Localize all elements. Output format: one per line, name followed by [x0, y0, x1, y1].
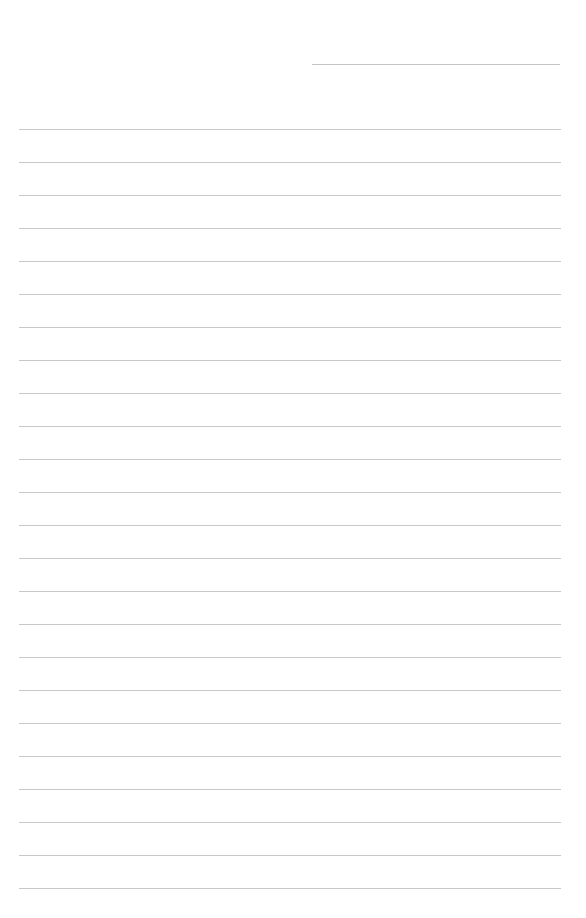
ruled-line	[19, 360, 561, 361]
ruled-line	[19, 426, 561, 427]
ruled-line	[19, 624, 561, 625]
ruled-line	[19, 591, 561, 592]
ruled-line	[19, 261, 561, 262]
ruled-line	[19, 327, 561, 328]
lined-paper-page	[0, 0, 586, 918]
ruled-line	[19, 756, 561, 757]
ruled-line	[19, 822, 561, 823]
ruled-line	[19, 558, 561, 559]
ruled-line	[19, 129, 561, 130]
ruled-line	[19, 789, 561, 790]
ruled-line	[19, 525, 561, 526]
ruled-line	[19, 195, 561, 196]
ruled-line	[19, 228, 561, 229]
ruled-line	[19, 888, 561, 889]
header-name-line	[312, 64, 560, 65]
ruled-line	[19, 294, 561, 295]
ruled-line	[19, 690, 561, 691]
ruled-line	[19, 657, 561, 658]
ruled-line	[19, 162, 561, 163]
ruled-line	[19, 492, 561, 493]
ruled-line	[19, 459, 561, 460]
ruled-line	[19, 723, 561, 724]
ruled-line	[19, 855, 561, 856]
ruled-line	[19, 393, 561, 394]
